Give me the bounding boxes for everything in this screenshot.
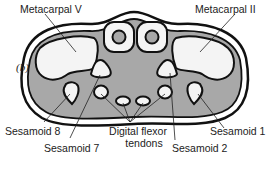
label-sesamoid-1: Sesamoid 1 [210, 125, 265, 137]
label-sesamoid-8: Sesamoid 8 [5, 125, 60, 137]
diagram-figure: Metacarpal V Metacarpal II (b) Sesamoid … [0, 0, 268, 169]
metacarpal-iii-marrow [113, 31, 126, 44]
label-digital-flexor-line2: tendons [106, 137, 170, 149]
panel-label: (b) [16, 61, 29, 73]
label-sesamoid-7: Sesamoid 7 [44, 142, 99, 154]
label-sesamoid-2: Sesamoid 2 [172, 142, 227, 154]
label-metacarpal-ii: Metacarpal II [195, 3, 256, 15]
digital-flexor-tendon-right [136, 97, 150, 106]
sesamoid-2 [158, 86, 172, 99]
label-metacarpal-v: Metacarpal V [20, 3, 82, 15]
label-digital-flexor: Digital flexor tendons [106, 125, 170, 149]
sesamoid-7 [94, 86, 108, 99]
label-digital-flexor-line1: Digital flexor [106, 125, 170, 137]
metacarpal-iv-marrow [146, 31, 159, 44]
